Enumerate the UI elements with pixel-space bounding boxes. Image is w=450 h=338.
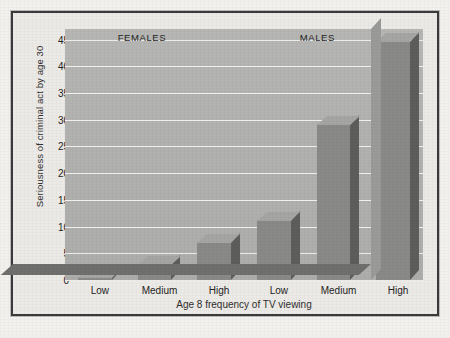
x-axis-title: Age 8 frequency of TV viewing: [65, 299, 423, 310]
bar-face: [376, 41, 409, 280]
bar-chart: Seriousness of criminal act by age 30 05…: [13, 13, 433, 310]
bar: [317, 125, 350, 280]
chart-figure-frame: Seriousness of criminal act by age 30 05…: [11, 11, 439, 316]
bar-side: [410, 32, 419, 280]
plot-area: FEMALESMALES: [65, 29, 423, 280]
plot-right-wall: [371, 18, 381, 280]
bar-face: [317, 124, 350, 280]
scanned-page: Seriousness of criminal act by age 30 05…: [0, 0, 450, 338]
bars-layer: [65, 29, 423, 280]
x-axis-tick-label: Medium: [142, 285, 178, 296]
group-annotation-females: FEMALES: [118, 32, 167, 43]
bar: [78, 278, 111, 280]
bar-side: [350, 115, 359, 280]
gridline: [65, 280, 423, 281]
x-axis-tick-label: Medium: [321, 285, 357, 296]
x-axis-tick-label: High: [388, 285, 409, 296]
plot-floor: [1, 264, 371, 275]
x-axis-tick-label: High: [209, 285, 230, 296]
bar: [376, 42, 409, 280]
x-axis-tick-label: Low: [270, 285, 288, 296]
group-annotation-males: MALES: [300, 32, 335, 43]
x-axis-tick-label: Low: [91, 285, 109, 296]
